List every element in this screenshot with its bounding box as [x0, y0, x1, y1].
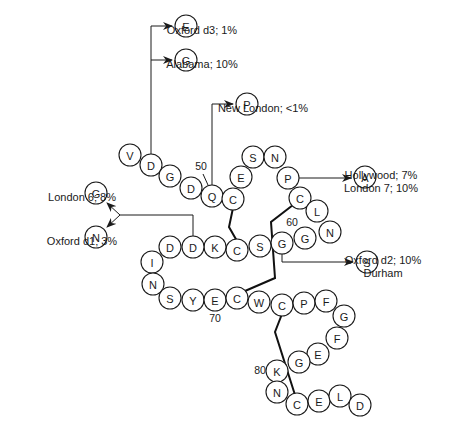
residue: F: [315, 290, 337, 312]
residue-letter: P: [300, 298, 307, 310]
residue: C: [226, 287, 248, 309]
residue: S: [159, 287, 181, 309]
residue: G: [294, 227, 316, 249]
residue: E: [230, 166, 252, 188]
residue-letter: D: [187, 183, 195, 195]
residue: V: [119, 144, 141, 166]
residue-letter: G: [340, 311, 349, 323]
residue-letter: E: [211, 295, 218, 307]
residue: I: [141, 251, 163, 273]
residue: D: [180, 177, 202, 199]
connector-oxford-d1-branch: [107, 215, 120, 227]
protein-sequence-diagram: VDGDQCESNPCLNGGSCKDDINSYECWCPFGFEGKNCELD…: [0, 0, 471, 421]
residue-letter: E: [314, 349, 321, 361]
residue-letter: C: [293, 399, 301, 411]
residue-letter: K: [211, 242, 219, 254]
residue-letter: N: [149, 279, 157, 291]
residue-letter: G: [301, 233, 310, 245]
residue: W: [248, 291, 270, 313]
residue-letter: V: [126, 150, 134, 162]
residue: E: [308, 390, 330, 412]
residue-letter: L: [337, 391, 343, 403]
variant-label: London 6; 8%: [48, 191, 116, 203]
residue: L: [306, 200, 328, 222]
residue-letter: N: [271, 152, 279, 164]
position-tick: [203, 174, 208, 185]
residue: G: [271, 232, 293, 254]
residue-letter: D: [189, 242, 197, 254]
residue-letter: C: [296, 193, 304, 205]
residue: C: [226, 239, 248, 261]
variant: GAlabama; 10%: [166, 49, 238, 71]
residue-letter: G: [166, 171, 175, 183]
residue-letter: S: [256, 241, 263, 253]
residue-letter: G: [295, 357, 304, 369]
variant-label: Oxford d2; 10%: [345, 254, 422, 266]
connector-oxford-d3: [151, 26, 172, 155]
residue: P: [277, 167, 299, 189]
residue-letter: G: [278, 238, 287, 250]
residue: P: [293, 292, 315, 314]
residue-letter: L: [314, 206, 320, 218]
residue-letter: N: [326, 227, 334, 239]
residue: N: [266, 381, 288, 403]
residue: Y: [182, 289, 204, 311]
variant-label: Durham: [363, 267, 402, 279]
position-number: 80: [254, 364, 266, 376]
residue: K: [266, 360, 288, 382]
variant: GLondon 6; 8%: [48, 182, 116, 204]
residue: G: [288, 351, 310, 373]
variant: PNew London; <1%: [218, 93, 308, 115]
residue: L: [329, 385, 351, 407]
residue-letter: E: [237, 172, 244, 184]
residue: S: [242, 146, 264, 168]
residue-letter: Y: [189, 295, 197, 307]
residue-letter: C: [233, 245, 241, 257]
residue-letter: D: [356, 400, 364, 412]
residue: F: [326, 327, 348, 349]
residue: C: [286, 393, 308, 415]
residue-letter: N: [273, 387, 281, 399]
residue-letter: D: [147, 160, 155, 172]
residue-letter: C: [233, 293, 241, 305]
residue-letter: K: [273, 366, 281, 378]
connector-london6: [120, 215, 193, 238]
residue: G: [333, 305, 355, 327]
residue: G: [159, 165, 181, 187]
connector-oxford-d2: [282, 252, 353, 262]
residue: N: [319, 221, 341, 243]
variant: EOxford d3; 1%: [167, 15, 238, 37]
connector-london6-branch: [107, 203, 120, 215]
variant-label: New London; <1%: [218, 102, 308, 114]
residue-letter: C: [278, 300, 286, 312]
variant: NOxford d1; 3%: [47, 226, 118, 248]
residue-letter: Q: [208, 191, 217, 203]
residue: E: [204, 289, 226, 311]
residue-letter: D: [166, 242, 174, 254]
residue: D: [349, 394, 371, 416]
variant: AHollywood; 7%London 7; 10%: [344, 166, 418, 194]
variant-label: Oxford d3; 1%: [167, 24, 238, 36]
position-number: 50: [195, 160, 207, 172]
residue-letter: F: [334, 333, 341, 345]
variant: SOxford d2; 10%Durham: [345, 251, 422, 279]
residue: C: [271, 294, 293, 316]
variant-label: Alabama; 10%: [166, 58, 238, 70]
residue: N: [264, 146, 286, 168]
residue-letter: S: [249, 152, 256, 164]
residue: D: [140, 154, 162, 176]
residue-letter: I: [150, 257, 153, 269]
variant-label: London 7; 10%: [344, 182, 418, 194]
residue: D: [159, 236, 181, 258]
residue-letter: P: [284, 173, 291, 185]
residue: S: [249, 235, 271, 257]
disulfide-bond-1: [229, 208, 237, 241]
residue-letter: E: [315, 396, 322, 408]
residue: K: [204, 236, 226, 258]
residue-letter: S: [166, 293, 173, 305]
position-number: 70: [209, 312, 221, 324]
residue-letter: W: [254, 297, 265, 309]
position-number: 60: [286, 216, 298, 228]
residue: D: [182, 236, 204, 258]
residue-letter: C: [229, 194, 237, 206]
